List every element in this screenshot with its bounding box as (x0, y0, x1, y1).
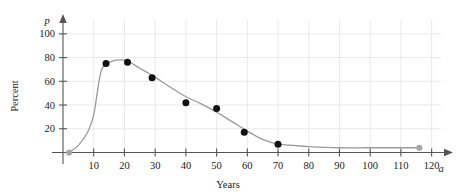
y-axis-title: Percent (9, 80, 20, 112)
data-point-4 (213, 105, 220, 112)
y-axis-arrowhead (59, 14, 66, 23)
x-axis-title: Years (216, 179, 239, 190)
data-point-1 (124, 59, 131, 66)
y-tick-label-40: 40 (45, 100, 56, 111)
x-tick-label-80: 80 (304, 160, 315, 171)
figure-container: 20406080100 102030405060708090100110120 … (0, 0, 463, 194)
data-point-3 (182, 99, 189, 106)
y-tick-label-20: 20 (45, 123, 56, 134)
endpoint-markers (66, 145, 422, 156)
x-tick-label-40: 40 (181, 160, 192, 171)
data-point-5 (241, 129, 248, 136)
data-point-0 (103, 60, 110, 67)
data-point-6 (275, 141, 282, 148)
y-axis-variable-label: p (43, 15, 49, 26)
y-tick-label-80: 80 (45, 52, 56, 63)
x-tick-label-10: 10 (88, 160, 99, 171)
vertical-gridlines (94, 20, 432, 153)
percent-vs-years-chart: 20406080100 102030405060708090100110120 … (0, 0, 463, 194)
x-axis-tick-labels: 102030405060708090100110120 (88, 160, 439, 171)
x-tick-label-60: 60 (242, 160, 253, 171)
data-point-2 (149, 74, 156, 81)
fitted-curve (69, 60, 419, 153)
endpoint-marker-0 (66, 149, 72, 155)
x-tick-label-50: 50 (211, 160, 222, 171)
x-tick-label-20: 20 (119, 160, 130, 171)
y-tick-label-60: 60 (45, 76, 56, 87)
x-tick-label-110: 110 (393, 160, 408, 171)
x-tick-label-120: 120 (424, 160, 440, 171)
x-tick-label-90: 90 (334, 160, 345, 171)
data-point-markers (103, 59, 282, 148)
horizontal-gridlines (63, 34, 441, 129)
y-axis-tick-labels: 20406080100 (39, 28, 55, 134)
x-tick-label-100: 100 (362, 160, 378, 171)
y-tick-label-100: 100 (39, 28, 55, 39)
x-tick-label-30: 30 (150, 160, 161, 171)
x-axis-arrowhead (444, 149, 453, 156)
endpoint-marker-1 (416, 145, 422, 151)
x-axis-variable-label: a (438, 163, 443, 174)
x-tick-label-70: 70 (273, 160, 284, 171)
